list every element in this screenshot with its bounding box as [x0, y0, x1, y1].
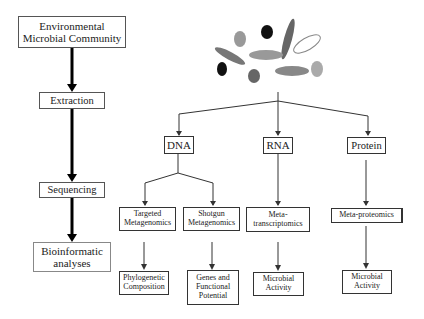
output-arrow-lines	[144, 226, 366, 269]
dna-branch-lines	[145, 154, 366, 205]
method-line2: Metagenomics	[188, 219, 235, 228]
bioinf-label-line1: Bioinformatic	[41, 245, 103, 257]
rna-label: RNA	[266, 139, 289, 151]
left-thick-arrows	[67, 48, 77, 242]
targeted-metagenomics-box: Targeted Metagenomics	[119, 207, 176, 231]
output-line2: Composition	[123, 283, 165, 292]
molecule-branch-lines	[179, 92, 368, 135]
shotgun-metagenomics-box: Shotgun Metagenomics	[183, 207, 240, 231]
sequencing-box: Sequencing	[39, 182, 105, 198]
rna-microbial-activity-box: Microbial Activity	[253, 272, 304, 296]
extraction-box: Extraction	[39, 92, 105, 109]
method-line1: Meta-proteomics	[339, 211, 394, 220]
protein-box: Protein	[347, 137, 386, 154]
dna-box: DNA	[164, 136, 194, 154]
genes-functional-potential-box: Genes and Functional Potential	[187, 270, 239, 305]
output-line3: Potential	[196, 292, 230, 301]
bioinformatic-analyses-box: Bioinformatic analyses	[33, 242, 111, 272]
metaproteomics-box: Meta-proteomics	[331, 208, 403, 223]
method-line2: Metagenomics	[124, 219, 171, 228]
microbial-community-illustration	[213, 18, 323, 83]
env-label-line2: Microbial Community	[23, 32, 122, 44]
extraction-label: Extraction	[50, 95, 94, 107]
method-line2: transcriptomics	[253, 220, 302, 229]
bioinf-label-line2: analyses	[41, 257, 103, 269]
output-line2: Activity	[263, 284, 295, 293]
env-label-line1: Environmental	[23, 20, 122, 32]
metagenomics-workflow-diagram: Environmental Microbial Community Extrac…	[0, 0, 424, 319]
output-line2: Activity	[351, 282, 383, 291]
protein-microbial-activity-box: Microbial Activity	[342, 270, 392, 294]
sequencing-label: Sequencing	[48, 184, 97, 196]
protein-label: Protein	[351, 140, 381, 152]
dna-label: DNA	[167, 139, 191, 151]
phylogenetic-composition-box: Phylogenetic Composition	[119, 271, 169, 295]
rna-box: RNA	[263, 137, 293, 154]
metatranscriptomics-box: Meta- transcriptomics	[246, 207, 310, 232]
environmental-community-box: Environmental Microbial Community	[18, 16, 126, 48]
